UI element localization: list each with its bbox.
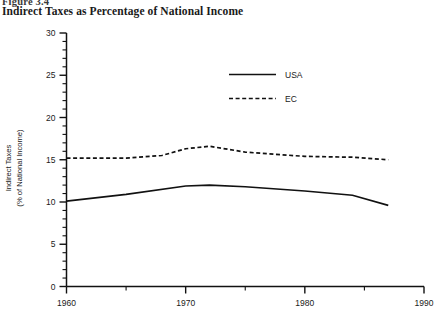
y-axis-title-line1: Indirect Taxes	[4, 144, 13, 191]
x-tick-label: 1970	[176, 298, 195, 308]
y-tick-label: 30	[46, 28, 56, 38]
y-axis-ticks	[60, 33, 67, 287]
x-tick-label: 1960	[57, 298, 76, 308]
x-tick-label: 1980	[295, 298, 314, 308]
y-tick-label: 5	[51, 239, 56, 249]
x-tick-label: 1990	[415, 298, 434, 308]
y-tick-label: 0	[51, 282, 56, 292]
y-axis-tick-labels: 051015202530	[46, 28, 56, 292]
y-tick-label: 15	[46, 155, 56, 165]
y-tick-label: 10	[46, 197, 56, 207]
y-axis-title: Indirect Taxes (% of National Income)	[4, 129, 24, 207]
series-line-ec	[67, 146, 389, 160]
series-line-usa	[67, 185, 389, 205]
x-axis-tick-labels: 1960197019801990	[57, 298, 434, 308]
y-tick-label: 20	[46, 113, 56, 123]
y-tick-label: 25	[46, 70, 56, 80]
x-axis-ticks	[67, 287, 425, 294]
series-group	[67, 146, 389, 205]
legend-label-usa: USA	[285, 70, 303, 80]
figure-root: Figure 3.4 Indirect Taxes as Percentage …	[0, 0, 440, 315]
legend: USA EC	[229, 70, 303, 104]
legend-label-ec: EC	[285, 94, 297, 104]
y-axis-title-line2: (% of National Income)	[15, 129, 24, 207]
line-chart: 051015202530 1960197019801990 Indirect T…	[0, 0, 440, 315]
